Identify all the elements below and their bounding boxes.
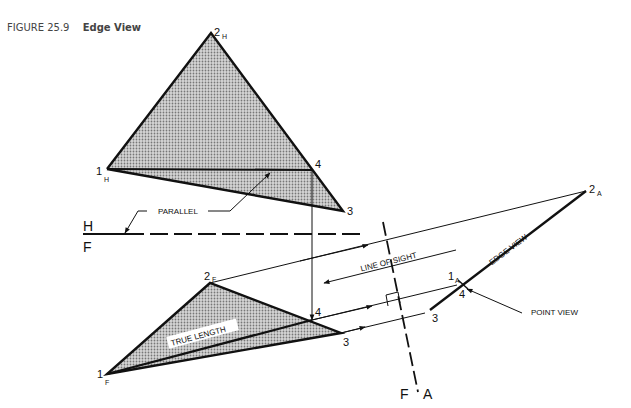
svg-text:H: H bbox=[222, 33, 227, 40]
fold-label-a: A bbox=[423, 386, 433, 402]
label-3h: 3 bbox=[347, 205, 353, 217]
front-view: TRUE LENGTH 2 F 1 F 4 3 bbox=[97, 270, 349, 386]
svg-text:F: F bbox=[105, 379, 109, 386]
fold-label-f2: F bbox=[400, 386, 409, 402]
label-2h: 2 bbox=[214, 26, 220, 38]
fold-label-h: H bbox=[83, 218, 93, 234]
fold-line-hf: H F bbox=[83, 218, 366, 255]
label-2f: 2 bbox=[204, 270, 210, 282]
label-4a: 4 bbox=[459, 288, 465, 300]
label-4f: 4 bbox=[315, 306, 321, 318]
line-of-sight: LINE OF SIGHT bbox=[324, 250, 456, 283]
fold-line-fa: F A bbox=[383, 222, 433, 402]
svg-text:H: H bbox=[104, 176, 109, 183]
edge-view-diagram: 2 H 1 H 4 3 PARALLEL PARALLEL H F TRUE L… bbox=[0, 0, 631, 408]
fold-label-f: F bbox=[83, 239, 92, 255]
aux-view: EDGE VIEW 2 A 1 A 4 3 POINT VIEW bbox=[430, 183, 602, 324]
label-1a: 1 bbox=[448, 270, 454, 282]
point-view-label: POINT VIEW bbox=[531, 308, 578, 317]
label-1h: 1 bbox=[96, 165, 102, 177]
svg-text:PARALLEL: PARALLEL bbox=[158, 207, 198, 216]
top-view: 2 H 1 H 4 3 PARALLEL PARALLEL bbox=[96, 26, 353, 320]
label-1f: 1 bbox=[97, 368, 103, 380]
label-4h: 4 bbox=[315, 158, 321, 170]
svg-text:A: A bbox=[455, 277, 460, 284]
svg-text:A: A bbox=[597, 190, 602, 197]
label-2a: 2 bbox=[589, 183, 595, 195]
label-3a: 3 bbox=[432, 312, 438, 324]
edge-view-label: EDGE VIEW bbox=[488, 232, 530, 267]
label-3f: 3 bbox=[343, 336, 349, 348]
